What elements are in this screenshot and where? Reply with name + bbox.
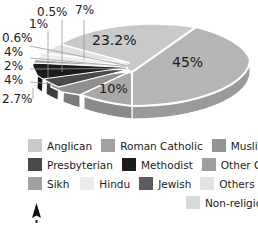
pct-label-hindu: 1% xyxy=(29,18,48,30)
legend-item-other-christian: Other Christian xyxy=(202,157,258,172)
legend-item-anglican: Anglican xyxy=(28,138,92,153)
pct-label-sikh: 0.6% xyxy=(2,32,33,44)
pct-label-roman-catholic: 10% xyxy=(99,82,128,95)
legend-label-hindu: Hindu xyxy=(99,178,130,190)
legend-swatch-other-christian xyxy=(202,158,216,171)
pct-label-muslim: 2.7% xyxy=(2,93,33,105)
legend-swatch-hindu xyxy=(80,177,94,190)
legend-label-muslim: Muslim xyxy=(231,140,258,152)
legend-label-others: Others xyxy=(219,178,254,190)
pct-label-anglican: 23.2% xyxy=(92,33,136,47)
legend-item-muslim: Muslim xyxy=(212,138,258,153)
pct-label-non-religious: 45% xyxy=(172,55,203,69)
legend-row: Presbyterian Methodist Other Christian xyxy=(28,157,258,172)
legend-label-sikh: Sikh xyxy=(47,178,69,190)
pie-chart-figure: 0.5% 7% 1% 0.6% 4% 2% 4% 2.7% 23.2% 45% … xyxy=(0,0,258,226)
legend-item-sikh: Sikh xyxy=(28,176,69,191)
pct-label-others: 7% xyxy=(75,4,94,16)
legend-item-non-religious: Non-religious xyxy=(186,195,258,210)
legend-item-hindu: Hindu xyxy=(80,176,130,191)
legend-swatch-muslim xyxy=(212,139,226,152)
pct-label-presbyterian: 4% xyxy=(4,74,23,86)
leader-line-presbyterian xyxy=(30,69,126,70)
legend-row: Anglican Roman Catholic Muslim xyxy=(28,138,258,153)
legend-swatch-jewish xyxy=(139,177,153,190)
chart-legend: Anglican Roman Catholic Muslim Presbyter… xyxy=(0,134,258,206)
legend-swatch-anglican xyxy=(28,139,42,152)
legend-item-roman-catholic: Roman Catholic xyxy=(101,138,202,153)
legend-label-jewish: Jewish xyxy=(158,178,191,190)
legend-swatch-roman-catholic xyxy=(101,139,115,152)
legend-label-presbyterian: Presbyterian xyxy=(47,159,113,171)
legend-swatch-non-religious xyxy=(186,196,200,209)
legend-swatch-presbyterian xyxy=(28,158,42,171)
legend-swatch-sikh xyxy=(28,177,42,190)
legend-swatch-others xyxy=(200,177,214,190)
pct-label-methodist: 2% xyxy=(4,60,23,72)
legend-label-anglican: Anglican xyxy=(47,140,92,152)
legend-label-non-religious: Non-religious xyxy=(205,197,258,209)
legend-swatch-methodist xyxy=(122,158,136,171)
legend-item-jewish: Jewish xyxy=(139,176,191,191)
pct-label-methodist-group: 4% xyxy=(4,46,23,58)
legend-row: Sikh Hindu Jewish Others xyxy=(28,176,255,191)
legend-label-roman-catholic: Roman Catholic xyxy=(120,140,202,152)
legend-label-other-christian: Other Christian xyxy=(221,159,258,171)
legend-item-methodist: Methodist xyxy=(122,157,193,172)
legend-label-methodist: Methodist xyxy=(141,159,193,171)
legend-item-presbyterian: Presbyterian xyxy=(28,157,113,172)
legend-row: Non-religious xyxy=(186,195,258,210)
legend-item-others: Others xyxy=(200,176,254,191)
